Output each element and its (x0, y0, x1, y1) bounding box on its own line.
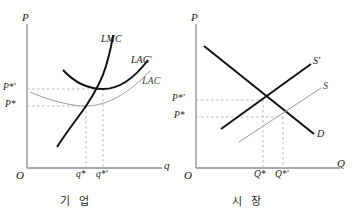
market-tick-p-star-prime: P*' (172, 94, 185, 104)
market-tick-big-q-star-prime: Q*' (275, 170, 289, 180)
economics-figure: P q O P*' P* q* q*' LMC LAC' LAC 기 업 P Q… (0, 0, 353, 214)
figure-canvas (0, 0, 353, 214)
lac-prime-curve-label: LAC' (131, 55, 151, 65)
firm-tick-p-star: P* (5, 100, 16, 110)
supply-curve-path (239, 88, 321, 142)
market-x-axis-label: Q (337, 158, 345, 169)
firm-tick-q-star-prime: q*' (96, 170, 108, 180)
lac-curve-label: LAC (142, 76, 160, 86)
market-tick-big-q-star: Q* (254, 170, 266, 180)
demand-curve-label: D (317, 129, 324, 139)
firm-origin-label: O (16, 170, 24, 181)
supply-prime-curve-label: S' (313, 56, 320, 66)
firm-tick-q-star: q* (76, 170, 86, 180)
firm-y-axis-label: P (22, 12, 29, 23)
lmc-curve-label: LMC (101, 34, 122, 44)
market-tick-p-star: P* (174, 111, 185, 121)
market-origin-label: O (184, 170, 192, 181)
market-caption: 시 장 (232, 192, 265, 208)
lmc-curve-path (57, 35, 113, 147)
supply-curve-label: S (323, 81, 328, 91)
supply-prime-curve-path (221, 64, 311, 129)
firm-tick-p-star-prime: P*' (3, 83, 16, 93)
firm-panel-graphics (27, 24, 162, 168)
market-y-axis-label: P (191, 12, 198, 23)
demand-curve-path (204, 46, 314, 134)
firm-x-axis-label: q (164, 160, 170, 171)
market-panel-graphics (196, 24, 340, 168)
firm-caption: 기 업 (60, 192, 93, 208)
